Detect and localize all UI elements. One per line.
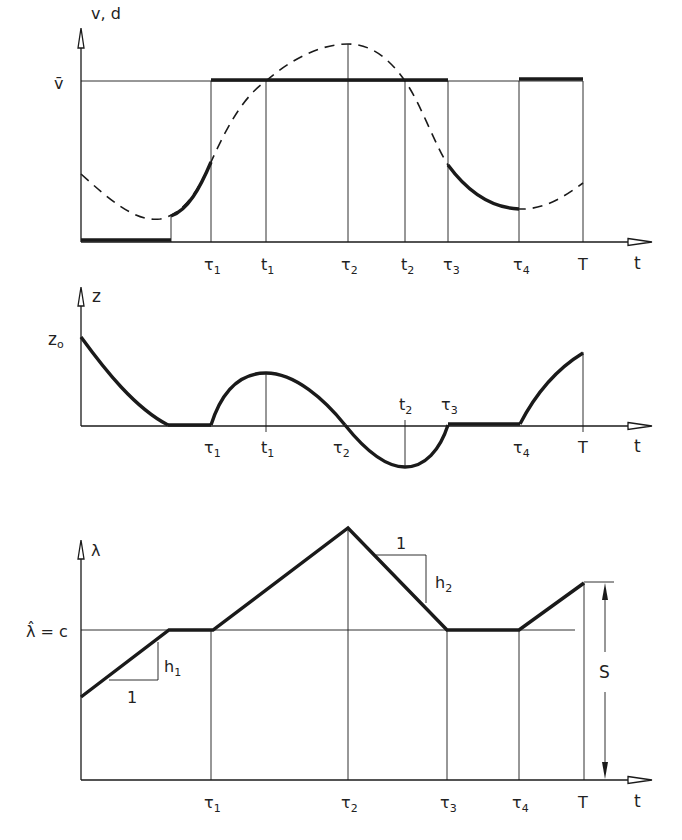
- y-axis-label: z: [92, 286, 101, 306]
- slope-triangle-1: [109, 642, 158, 680]
- tick-T: T: [577, 793, 588, 812]
- tick-tau1: τ1: [204, 255, 221, 277]
- y-axis-label: λ: [91, 541, 100, 560]
- y-axis-label: v, d: [91, 4, 121, 23]
- tick-tau1: τ1: [204, 793, 221, 815]
- vertical-guides: [266, 352, 583, 467]
- tick-tau2: τ2: [341, 793, 358, 815]
- tick-labels: τ1 τ2 τ3 τ4 T: [204, 793, 588, 815]
- tick-tau4: τ4: [512, 793, 529, 815]
- x-axis-label: t: [634, 791, 641, 811]
- y-axis-arrow-icon: [78, 540, 84, 559]
- slope2-rise-label: h2: [435, 573, 452, 595]
- tick-T: T: [577, 255, 588, 274]
- tick-tau2: τ2: [341, 255, 358, 277]
- slope2-run-label: 1: [396, 534, 406, 553]
- x-axis-arrow-icon: [628, 239, 652, 246]
- y-axis-arrow-icon: [78, 28, 84, 48]
- vertical-guides: [171, 44, 583, 242]
- figure: v, d v̄ t t τ1 t1 τ2 t2 τ3 τ4 T: [0, 0, 682, 840]
- tick-t2: t2: [401, 255, 414, 277]
- s-arrow-down-icon: [602, 762, 608, 779]
- tick-tau4: τ4: [513, 255, 530, 277]
- x-axis-label-t: t: [634, 253, 641, 273]
- tick-tau1: τ1: [204, 438, 221, 460]
- panel-velocity: v, d v̄ t t τ1 t1 τ2 t2 τ3 τ4 T: [54, 0, 652, 277]
- s-label: S: [599, 662, 610, 682]
- y-axis-arrow-icon: [78, 287, 84, 306]
- tick-tau4: τ4: [513, 438, 530, 460]
- slope1-run-label: 1: [127, 688, 137, 707]
- demand-curve-dashed: [81, 44, 583, 219]
- tick-t2-above: t2: [399, 395, 412, 417]
- x-axis-arrow-icon: [628, 777, 652, 784]
- storage-path: [81, 337, 583, 467]
- x-axis-label: t: [634, 436, 641, 456]
- lambda-hat-label: λ̂ = c: [26, 621, 68, 641]
- tick-tau3-above: τ3: [441, 395, 458, 417]
- x-axis-arrow-icon: [628, 423, 652, 430]
- tick-t1: t1: [261, 255, 274, 277]
- s-arrow-up-icon: [602, 583, 608, 600]
- slope1-rise-label: h1: [164, 657, 181, 679]
- optimal-path: [81, 79, 583, 240]
- vbar-label: v̄: [54, 74, 63, 93]
- tick-tau3: τ3: [443, 255, 460, 277]
- tick-tau3: τ3: [440, 793, 457, 815]
- panel-storage: z zo t τ1 t1 τ2 τ4 T t2 τ3: [48, 286, 652, 467]
- z0-label: zo: [48, 329, 64, 351]
- tick-t1: t1: [261, 438, 274, 460]
- tick-labels: τ1 t1 τ2 t2 τ3 τ4 T: [204, 255, 588, 277]
- panel-shadow-price: S λ λ̂ = c 1 h1 1 h2 t τ1 τ2 τ3 τ4 T: [26, 528, 652, 815]
- lambda-path: [81, 528, 584, 697]
- vertical-guides: [211, 528, 584, 780]
- tick-tau2: τ2: [333, 438, 350, 460]
- tick-T: T: [577, 438, 588, 457]
